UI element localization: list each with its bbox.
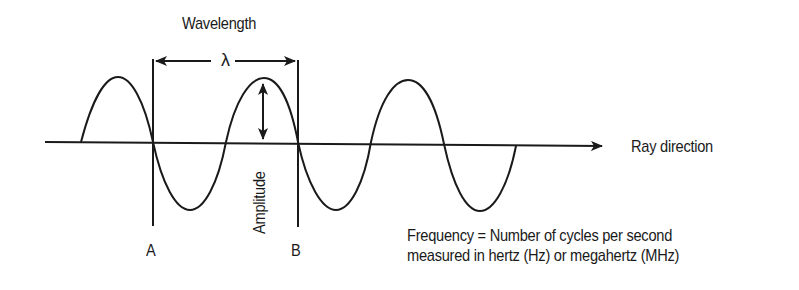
ray-direction-label: Ray direction (631, 137, 713, 157)
point-b-label: B (291, 241, 301, 261)
lambda-symbol: λ (218, 50, 233, 71)
point-a-label: A (146, 241, 156, 261)
frequency-definition-line1: Frequency = Number of cycles per second (407, 226, 672, 246)
frequency-definition-line2: measured in hertz (Hz) or megahertz (MHz… (407, 246, 679, 266)
amplitude-label: Amplitude (250, 171, 270, 234)
ray-direction-axis (45, 142, 602, 146)
wavelength-title: Wavelength (182, 14, 256, 34)
